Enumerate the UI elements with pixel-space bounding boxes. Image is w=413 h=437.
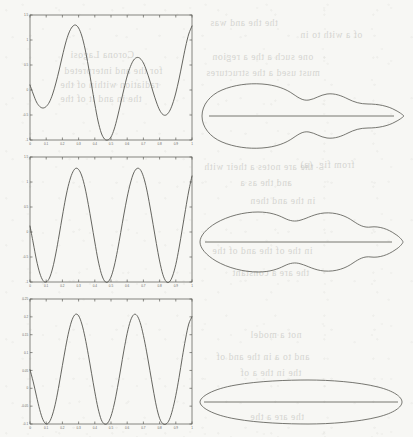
- x-tick-label-10: 1: [191, 284, 193, 288]
- x-tick-label-2: 0.2: [60, 142, 65, 146]
- y-tick-label-3: 0.5: [24, 205, 29, 209]
- x-tick-label-5: 0.5: [109, 426, 114, 430]
- x-tick-label-5: 0.5: [109, 142, 114, 146]
- panel-2-x-axis-ticks: 00.10.20.30.40.50.60.70.80.91: [29, 157, 193, 288]
- x-tick-label-4: 0.4: [93, 284, 98, 288]
- y-tick-label-2: 0: [26, 230, 28, 234]
- x-tick-label-7: 0.7: [141, 142, 146, 146]
- x-tick-label-10: 1: [191, 426, 193, 430]
- x-tick-label-1: 0.1: [44, 284, 49, 288]
- panel-2-data-curve: [30, 168, 192, 282]
- figure-shape-panel-2: [196, 196, 412, 288]
- ghost-text-3: one such a the a region: [212, 52, 313, 62]
- y-tick-label-2: 0: [26, 386, 28, 390]
- panel-1-x-axis-ticks: 00.10.20.30.40.50.60.70.80.91: [29, 15, 193, 146]
- figure-panel-3: 00.10.20.30.40.50.60.70.80.91 -0.1-0.050…: [8, 294, 198, 434]
- y-tick-label-0: -0.1: [23, 422, 29, 426]
- y-tick-label-4: 0.1: [24, 351, 29, 355]
- y-tick-label-5: 1.5: [24, 13, 29, 17]
- x-tick-label-3: 0.3: [76, 142, 81, 146]
- panel-1-waveform-chart: 00.10.20.30.40.50.60.70.80.91 -1-0.500.5…: [8, 10, 198, 150]
- y-tick-label-4: 1: [26, 38, 28, 42]
- panel-2-waveform-chart: 00.10.20.30.40.50.60.70.80.91 -1-0.500.5…: [8, 152, 198, 292]
- shape-1-pattern: [196, 75, 412, 157]
- x-tick-label-3: 0.3: [76, 426, 81, 430]
- panel-1-y-axis-ticks: -1-0.500.511.5: [23, 13, 192, 142]
- y-tick-label-6: 0.2: [24, 315, 29, 319]
- x-tick-label-5: 0.5: [109, 284, 114, 288]
- ghost-text-9: the are notes a their with: [204, 162, 313, 172]
- x-tick-label-2: 0.2: [60, 426, 65, 430]
- ghost-text-14: not a model: [250, 330, 301, 340]
- x-tick-label-4: 0.4: [93, 426, 98, 430]
- x-tick-label-6: 0.6: [125, 426, 130, 430]
- y-tick-label-2: 0: [26, 88, 28, 92]
- y-tick-label-1: -0.05: [21, 404, 28, 408]
- figure-panel-2: 00.10.20.30.40.50.60.70.80.91 -1-0.500.5…: [8, 152, 198, 292]
- y-tick-label-3: 0.5: [24, 63, 29, 67]
- x-tick-label-3: 0.3: [76, 284, 81, 288]
- panel-2-y-axis-ticks: -1-0.500.511.5: [23, 155, 192, 284]
- ghost-text-10: and the as a: [240, 178, 292, 188]
- x-tick-label-8: 0.8: [157, 426, 162, 430]
- x-tick-label-6: 0.6: [125, 142, 130, 146]
- panel-3-data-curve: [30, 314, 192, 424]
- y-tick-label-5: 0.15: [22, 333, 28, 337]
- x-tick-label-4: 0.4: [93, 142, 98, 146]
- y-tick-label-7: 0.25: [22, 297, 28, 301]
- x-tick-label-0: 0: [29, 284, 31, 288]
- x-tick-label-7: 0.7: [141, 284, 146, 288]
- x-tick-label-8: 0.8: [157, 142, 162, 146]
- y-tick-label-1: -0.5: [23, 255, 29, 259]
- panel-1-data-curve: [30, 25, 192, 140]
- panel-3-plot-frame: [30, 299, 192, 424]
- y-tick-label-0: -1: [25, 280, 28, 284]
- ghost-text-8: from fig. (a): [300, 160, 355, 170]
- y-tick-label-4: 1: [26, 180, 28, 184]
- x-tick-label-7: 0.7: [141, 426, 146, 430]
- x-tick-label-9: 0.9: [174, 142, 179, 146]
- x-tick-label-8: 0.8: [157, 284, 162, 288]
- shape-2-pattern: [196, 196, 412, 288]
- x-tick-label-0: 0: [29, 142, 31, 146]
- y-tick-label-0: -1: [25, 138, 28, 142]
- figure-shape-panel-1: [196, 75, 412, 157]
- y-tick-label-5: 1.5: [24, 155, 29, 159]
- x-tick-label-1: 0.1: [44, 426, 49, 430]
- panel-3-y-axis-ticks: -0.1-0.0500.050.10.150.20.25: [21, 297, 192, 426]
- panel-3-waveform-chart: 00.10.20.30.40.50.60.70.80.91 -0.1-0.050…: [8, 294, 198, 434]
- x-tick-label-9: 0.9: [174, 284, 179, 288]
- y-tick-label-1: -0.5: [23, 113, 29, 117]
- x-tick-label-9: 0.9: [174, 426, 179, 430]
- x-tick-label-6: 0.6: [125, 284, 130, 288]
- x-tick-label-10: 1: [191, 142, 193, 146]
- ghost-text-1: of a with to in: [300, 30, 362, 40]
- x-tick-label-1: 0.1: [44, 142, 49, 146]
- panel-2-plot-frame: [30, 157, 192, 282]
- figure-shape-panel-3: [196, 375, 412, 429]
- ghost-text-0: the the and was: [210, 18, 278, 28]
- y-tick-label-3: 0.05: [22, 369, 28, 373]
- panel-1-plot-frame: [30, 15, 192, 140]
- x-tick-label-2: 0.2: [60, 284, 65, 288]
- shape-3-pattern: [196, 375, 412, 429]
- figure-panel-1: 00.10.20.30.40.50.60.70.80.91 -1-0.500.5…: [8, 10, 198, 150]
- x-tick-label-0: 0: [29, 426, 31, 430]
- ghost-text-15: and to a in the and of: [216, 352, 309, 362]
